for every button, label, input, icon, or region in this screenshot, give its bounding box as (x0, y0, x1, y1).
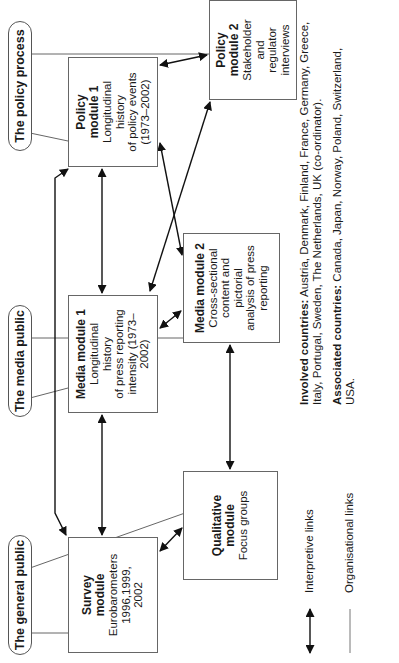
media-module-2-box: Media module 2 Cross-sectional content a… (183, 233, 280, 343)
associated-countries: Associated countries: Canada, Japan, Nor… (331, 20, 356, 405)
survey-desc-1: 1996,1999, (120, 566, 133, 624)
media1-desc-0: Longitudinal (88, 323, 101, 385)
countries-notes: Involved countries: Austria, Denmark, Fi… (298, 20, 364, 405)
media2-desc-1: content and (219, 258, 232, 318)
qualitative-module-box: Qualitative module Focus groups (183, 471, 278, 580)
policy2-desc-1: and (254, 40, 267, 59)
policy-module-2-box: Policy module 2 Stakeholder and regulato… (209, 0, 297, 100)
policy1-desc-3: (1973–2002) (139, 79, 152, 144)
policy1-title-2: module 1 (88, 86, 101, 139)
survey-module-box: Survey module Eurobarometers 1996,1999, … (68, 537, 158, 653)
diagram-stage: The general public The media public The … (0, 0, 399, 663)
media1-desc-4: 2002) (138, 339, 151, 368)
policy2-title-2: module 2 (228, 24, 241, 77)
media1-desc-3: intensity (1973– (126, 313, 139, 394)
policy1-desc-2: of policy events (126, 72, 139, 151)
policy2-desc-0: Stakeholder (241, 19, 254, 80)
qualitative-desc-0: Focus groups (237, 491, 250, 561)
header-general-public: The general public (8, 535, 32, 655)
media1-desc-2: of press reporting (113, 309, 126, 399)
associated-label: Associated countries: (331, 285, 343, 405)
involved-label: Involved countries: (298, 300, 310, 405)
media2-desc-2: pictorial (232, 268, 245, 308)
survey-desc-0: Eurobarometers (107, 554, 120, 636)
policy2-desc-3: interviews (279, 24, 292, 75)
media2-title: Media module 2 (194, 243, 207, 333)
media2-desc-3: analysis of press (244, 245, 257, 331)
header-policy-process: The policy process (8, 21, 32, 151)
media1-desc-1: history (101, 337, 114, 371)
policy1-desc-1: history (114, 95, 127, 129)
survey-desc-2: 2002 (132, 582, 145, 608)
header-media-public: The media public (8, 305, 32, 417)
media2-desc-0: Cross-sectional (207, 248, 220, 327)
policy2-desc-2: regulator (266, 27, 279, 72)
qualitative-title-2: module (224, 504, 237, 547)
legend-interpretive-label: Interpretive links (303, 509, 315, 593)
policy-module-1-box: Policy module 1 Longitudinal history of … (68, 57, 158, 167)
involved-countries: Involved countries: Austria, Denmark, Fi… (298, 20, 323, 405)
media-module-1-box: Media module 1 Longitudinal history of p… (68, 295, 158, 413)
legend-organisational-label: Organisational links (343, 493, 355, 593)
legend-icons (310, 609, 350, 653)
policy1-desc-0: Longitudinal (101, 81, 114, 143)
survey-title-2: module (94, 574, 107, 617)
media2-desc-4: reporting (257, 265, 270, 310)
media1-title: Media module 1 (75, 309, 88, 399)
